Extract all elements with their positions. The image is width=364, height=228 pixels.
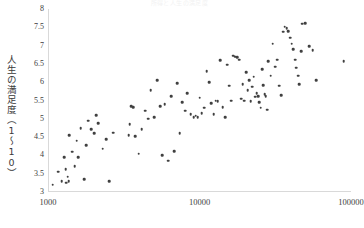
data-point <box>258 101 261 104</box>
data-point <box>267 60 270 63</box>
data-point <box>128 123 131 126</box>
data-point <box>210 102 213 105</box>
data-point <box>216 100 219 103</box>
data-point <box>199 96 202 99</box>
data-point <box>295 66 298 69</box>
data-point <box>243 99 246 102</box>
x-tick-label: 10000 <box>189 198 210 207</box>
data-point <box>280 94 283 97</box>
data-point <box>315 79 318 82</box>
data-point <box>141 128 144 131</box>
data-point <box>245 71 248 74</box>
data-point <box>85 144 88 147</box>
data-point <box>300 50 303 53</box>
data-point <box>297 74 300 77</box>
data-point <box>278 85 281 88</box>
data-point <box>71 150 74 153</box>
data-point <box>230 99 233 102</box>
data-point <box>342 60 345 63</box>
data-point <box>79 127 82 130</box>
data-point <box>257 95 260 98</box>
data-point <box>276 58 279 61</box>
data-point <box>132 106 135 109</box>
data-point <box>67 180 70 183</box>
data-point <box>292 48 295 51</box>
data-point <box>101 148 104 151</box>
data-point <box>144 109 147 112</box>
data-point <box>224 116 227 119</box>
data-point <box>97 122 100 125</box>
plot-area <box>48 9 351 192</box>
data-point <box>289 36 292 39</box>
data-point <box>212 113 215 116</box>
data-point <box>271 42 274 45</box>
data-point <box>161 154 164 157</box>
data-point <box>184 109 187 112</box>
data-point <box>147 118 150 121</box>
data-point <box>274 66 277 69</box>
data-point <box>246 89 249 92</box>
data-point <box>186 92 189 95</box>
data-point <box>64 168 67 171</box>
data-point <box>238 58 241 61</box>
x-tick-label: 1000 <box>40 198 57 207</box>
data-point <box>282 30 285 33</box>
data-point <box>241 83 244 86</box>
data-point <box>170 95 173 98</box>
data-point <box>308 45 311 48</box>
data-point <box>68 134 71 137</box>
data-point <box>178 132 181 135</box>
data-point <box>95 114 98 117</box>
data-point <box>108 180 111 183</box>
data-point <box>167 160 170 163</box>
data-point <box>251 85 254 88</box>
data-point <box>253 75 256 78</box>
data-point <box>112 131 115 134</box>
data-point <box>261 68 264 71</box>
data-point <box>134 135 137 138</box>
data-point <box>176 82 179 85</box>
data-point <box>83 178 86 181</box>
data-point <box>298 83 301 86</box>
data-point <box>226 63 229 66</box>
data-point <box>87 119 90 122</box>
data-point <box>265 95 268 98</box>
data-point <box>105 138 108 141</box>
data-point <box>311 49 314 52</box>
data-point <box>150 89 153 92</box>
data-point <box>250 100 253 103</box>
x-tick-label: 100000 <box>338 198 364 207</box>
data-point <box>208 81 211 84</box>
data-point <box>203 107 206 110</box>
data-point <box>137 152 140 155</box>
data-point <box>304 22 307 25</box>
data-point <box>228 85 231 88</box>
data-point <box>52 183 55 186</box>
data-point <box>259 107 262 110</box>
data-point <box>60 180 63 183</box>
data-point <box>287 30 290 33</box>
data-point <box>77 156 80 159</box>
data-point <box>240 97 243 100</box>
data-point <box>269 74 272 77</box>
data-point <box>153 116 156 119</box>
data-point <box>173 150 176 153</box>
data-point <box>197 116 200 119</box>
data-point <box>219 59 222 62</box>
data-point <box>156 79 159 82</box>
data-point <box>66 175 69 178</box>
data-point <box>93 132 96 135</box>
data-point <box>75 139 78 142</box>
data-point <box>266 108 269 111</box>
data-point <box>73 165 76 168</box>
data-point <box>127 134 130 137</box>
data-point <box>159 105 162 108</box>
data-point <box>181 101 184 104</box>
data-point <box>221 106 224 109</box>
data-point <box>63 156 66 159</box>
data-point <box>262 84 265 87</box>
data-point <box>205 70 208 73</box>
data-point <box>294 58 297 61</box>
data-point <box>163 103 166 106</box>
